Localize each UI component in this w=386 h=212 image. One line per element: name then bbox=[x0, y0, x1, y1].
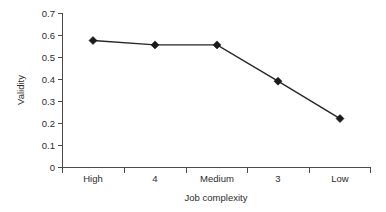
x-tick-label-3: 3 bbox=[275, 173, 280, 184]
data-point-4 bbox=[151, 41, 159, 49]
y-tick-label: 0.1 bbox=[42, 140, 55, 151]
line-chart: 0.7 0.6 0.5 0.4 0.3 0.2 0.1 0 High 4 Med… bbox=[0, 0, 386, 212]
x-tick-label-low: Low bbox=[331, 173, 349, 184]
x-axis-tick-labels: High 4 Medium 3 Low bbox=[83, 173, 349, 184]
y-tick-label: 0.3 bbox=[42, 96, 55, 107]
data-point-low bbox=[336, 115, 344, 123]
y-axis-tick-labels: 0.7 0.6 0.5 0.4 0.3 0.2 0.1 0 bbox=[42, 8, 55, 173]
y-axis-title: Validity bbox=[15, 75, 26, 105]
y-axis-ticks bbox=[58, 14, 62, 168]
y-tick-label: 0.2 bbox=[42, 118, 55, 129]
x-axis-title: Job complexity bbox=[185, 192, 248, 203]
series-markers-validity bbox=[89, 37, 344, 123]
data-point-medium bbox=[213, 41, 221, 49]
data-point-3 bbox=[274, 77, 282, 85]
series-line-validity bbox=[93, 41, 340, 119]
x-tick-label-medium: Medium bbox=[200, 173, 234, 184]
chart-container: 0.7 0.6 0.5 0.4 0.3 0.2 0.1 0 High 4 Med… bbox=[0, 0, 386, 212]
data-point-high bbox=[89, 37, 97, 45]
y-tick-label: 0.6 bbox=[42, 30, 55, 41]
y-tick-label: 0.5 bbox=[42, 52, 55, 63]
y-tick-label: 0.4 bbox=[42, 74, 55, 85]
y-tick-label: 0 bbox=[50, 162, 55, 173]
x-tick-label-4: 4 bbox=[152, 173, 157, 184]
x-tick-label-high: High bbox=[83, 173, 103, 184]
y-tick-label: 0.7 bbox=[42, 8, 55, 19]
